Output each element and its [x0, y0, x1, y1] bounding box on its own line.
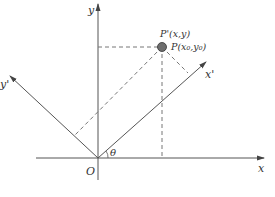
label-y-axis: y	[87, 4, 95, 17]
label-x-prime-axis: x'	[205, 68, 214, 81]
x-prime-axis	[98, 62, 206, 158]
label-x-axis: x	[258, 162, 265, 175]
label-y-prime-axis: y'	[0, 78, 9, 91]
label-origin: O	[86, 165, 95, 178]
angle-arc	[106, 151, 108, 158]
label-point-new: P'(x,y)	[159, 28, 190, 39]
label-theta: θ	[110, 147, 116, 158]
y-prime-axis	[10, 76, 98, 158]
label-point-old: P(x₀,y₀)	[170, 41, 206, 52]
point-p-marker	[158, 43, 167, 52]
dashed-parallel-to-x-prime	[75, 47, 162, 135]
rotation-diagram: y x x' y' O θ P'(x,y) P(x₀,y₀)	[0, 0, 275, 197]
